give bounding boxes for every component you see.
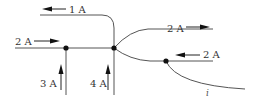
label-2a-left: 2 A <box>15 36 33 47</box>
label-i: i <box>206 88 209 98</box>
arrow-3a-head <box>59 64 64 74</box>
label-2a-middle-right: 2 A <box>203 49 221 60</box>
arrow-1a-head <box>42 7 52 12</box>
arrow-2a-middle-right-head <box>175 53 185 58</box>
label-2a-upper-right: 2 A <box>167 23 185 34</box>
label-1a: 1 A <box>69 4 87 15</box>
upper-right-branch <box>114 29 213 48</box>
junction-node-center <box>111 45 116 50</box>
junction-node-left <box>63 45 68 50</box>
arrow-4a-head <box>106 64 111 74</box>
label-4a: 4 A <box>90 78 108 89</box>
junction-node-right <box>163 58 168 63</box>
unknown-current-wire <box>166 61 245 89</box>
circuit-diagram: 1 A 2 A 3 A 4 A 2 A 2 A i <box>0 0 258 103</box>
arrow-2a-left-head <box>50 39 60 44</box>
label-3a: 3 A <box>40 78 58 89</box>
